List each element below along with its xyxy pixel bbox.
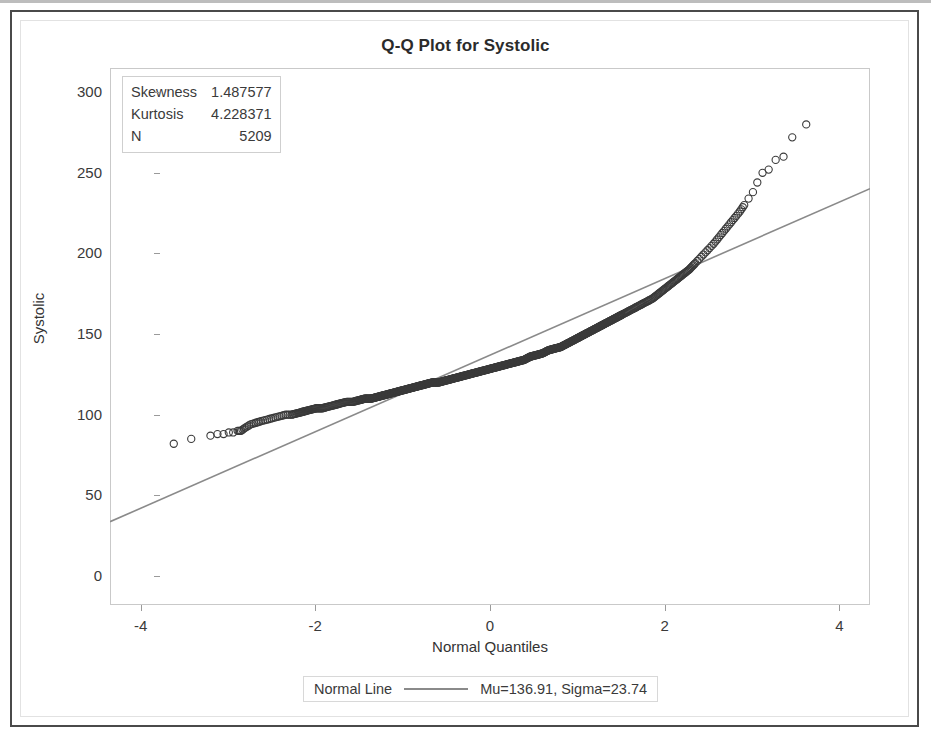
statistics-value: 1.487577 xyxy=(211,81,271,103)
x-tick-label: 4 xyxy=(819,617,859,634)
statistics-row: Skewness1.487577 xyxy=(131,81,272,103)
data-point xyxy=(207,432,214,439)
data-point xyxy=(188,435,195,442)
y-tick-mark xyxy=(154,173,160,174)
data-point xyxy=(700,251,707,258)
data-point xyxy=(803,121,810,128)
reference-line-segment xyxy=(110,189,870,522)
data-point xyxy=(696,255,703,262)
y-tick-mark xyxy=(154,415,160,416)
data-point xyxy=(170,440,177,447)
x-tick-label: -2 xyxy=(295,617,335,634)
statistics-label: Kurtosis xyxy=(131,103,197,125)
statistics-row: N5209 xyxy=(131,125,272,147)
data-point xyxy=(754,179,761,186)
statistics-label: Skewness xyxy=(131,81,211,103)
x-tick-mark xyxy=(490,605,491,611)
data-point xyxy=(745,195,752,202)
x-tick-label: -4 xyxy=(121,617,161,634)
statistics-row: Kurtosis4.228371 xyxy=(131,103,272,125)
top-edge-strip xyxy=(0,0,931,3)
data-point xyxy=(780,153,787,160)
statistics-label: N xyxy=(131,125,155,147)
y-tick-mark xyxy=(154,576,160,577)
x-tick-mark xyxy=(315,605,316,611)
data-point xyxy=(704,247,711,254)
y-tick-mark xyxy=(154,495,160,496)
y-tick-label: 50 xyxy=(56,486,102,503)
page-title: Q-Q Plot for Systolic xyxy=(0,36,931,56)
y-axis-title: Systolic xyxy=(30,259,47,379)
data-point xyxy=(706,244,713,251)
legend-line-swatch xyxy=(404,688,468,690)
data-point xyxy=(708,242,715,249)
data-point xyxy=(789,134,796,141)
data-point-series xyxy=(170,121,810,448)
y-tick-mark xyxy=(154,253,160,254)
data-point xyxy=(749,189,756,196)
x-tick-mark xyxy=(141,605,142,611)
legend: Normal Line Mu=136.91, Sigma=23.74 xyxy=(303,676,658,702)
qq-plot-page: Q-Q Plot for Systolic Skewness1.487577Ku… xyxy=(0,0,931,739)
x-tick-label: 2 xyxy=(645,617,685,634)
statistics-value: 4.228371 xyxy=(211,103,271,125)
y-axis-ticks: 050100150200250300 xyxy=(50,68,102,605)
x-tick-label: 0 xyxy=(470,617,510,634)
y-tick-label: 300 xyxy=(56,83,102,100)
y-tick-label: 200 xyxy=(56,244,102,261)
x-axis-title: Normal Quantiles xyxy=(110,638,870,655)
y-tick-mark xyxy=(154,334,160,335)
legend-parameters-label: Mu=136.91, Sigma=23.74 xyxy=(480,681,647,697)
x-tick-mark xyxy=(839,605,840,611)
data-point xyxy=(698,253,705,260)
y-tick-mark xyxy=(154,92,160,93)
x-tick-mark xyxy=(665,605,666,611)
y-tick-label: 0 xyxy=(56,567,102,584)
data-point xyxy=(772,156,779,163)
y-tick-label: 250 xyxy=(56,164,102,181)
legend-series-label: Normal Line xyxy=(314,681,392,697)
data-point xyxy=(702,249,709,256)
statistics-value: 5209 xyxy=(239,125,271,147)
normal-reference-line xyxy=(110,189,870,522)
data-point xyxy=(765,166,772,173)
y-tick-label: 100 xyxy=(56,406,102,423)
statistics-box: Skewness1.487577Kurtosis4.228371N5209 xyxy=(122,76,281,153)
y-tick-label: 150 xyxy=(56,325,102,342)
